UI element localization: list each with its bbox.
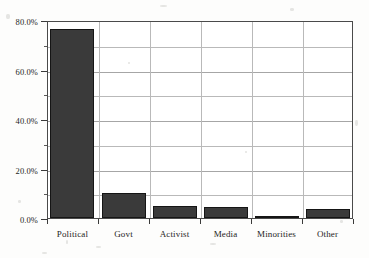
x-tick-mark-6 <box>353 219 354 224</box>
bar-activist <box>153 206 197 218</box>
x-tick-mark-3 <box>200 219 201 224</box>
x-tick-mark-4 <box>251 219 252 224</box>
x-tick-mark-1 <box>98 219 99 224</box>
x-tick-mark-0 <box>47 219 48 224</box>
y-tick-label-20: 20.0% <box>16 166 38 176</box>
x-tick-label-other: Other <box>302 229 353 239</box>
x-tick-label-govt: Govt <box>98 229 149 239</box>
bar-minorities <box>255 216 299 219</box>
y-tick-label-0: 0.0% <box>20 215 38 225</box>
y-tick-label-40: 40.0% <box>16 116 38 126</box>
bar-govt <box>102 193 146 218</box>
x-tick-label-political: Political <box>47 229 98 239</box>
x-tick-label-activist: Activist <box>149 229 200 239</box>
bar-other <box>306 209 350 218</box>
bar-chart: 0.0% 20.0% 40.0% 60.0% 80.0% <box>0 0 369 258</box>
x-tick-label-minorities: Minorities <box>251 229 302 239</box>
y-tick-label-60: 60.0% <box>16 67 38 77</box>
y-tick-label-80: 80.0% <box>16 17 38 27</box>
x-tick-mark-5 <box>302 219 303 224</box>
x-tick-mark-2 <box>149 219 150 224</box>
bars-layer <box>48 22 352 218</box>
bar-political <box>50 29 94 218</box>
plot-area <box>47 21 353 219</box>
x-tick-label-media: Media <box>200 229 251 239</box>
bar-media <box>204 207 248 218</box>
